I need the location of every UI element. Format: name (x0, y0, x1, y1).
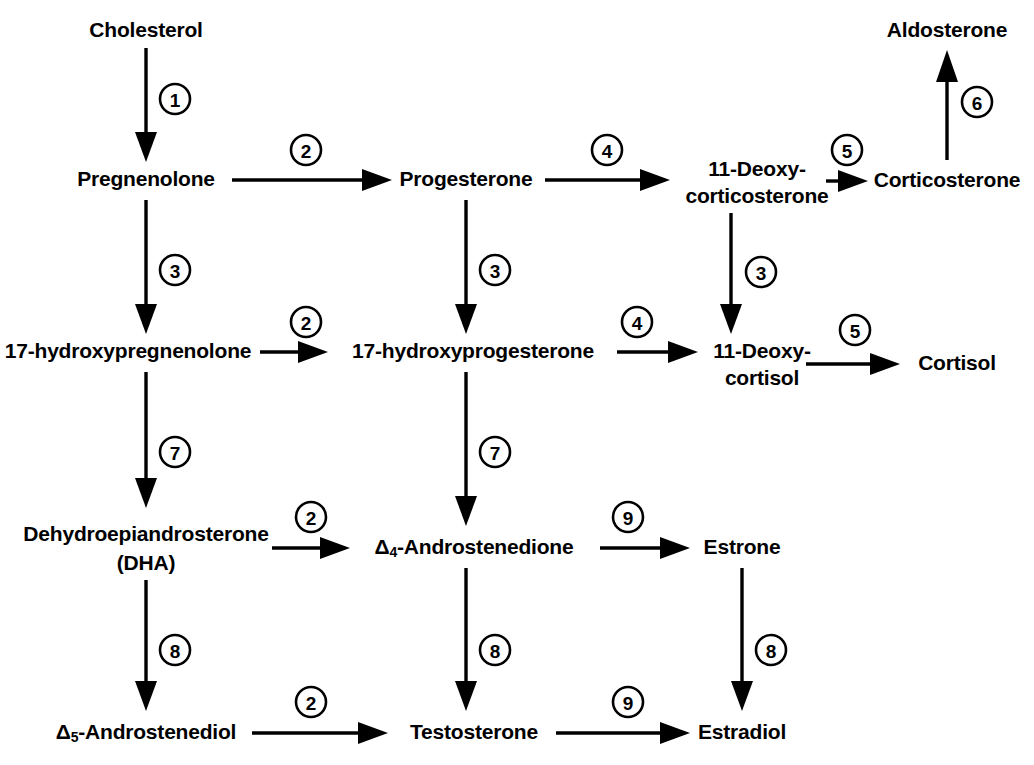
androstenedione-text: -Androstenedione (397, 535, 573, 558)
arrow-head-right (870, 353, 900, 375)
edge-17-hydroxyprogesterone-to-androstenedione: 7 (455, 372, 510, 526)
node-label-corticosterone: Corticosterone (874, 168, 1021, 191)
node-label-cortisol: Cortisol (918, 351, 996, 374)
enzyme-number-8: 8 (490, 641, 501, 662)
arrow-head-down (455, 681, 477, 711)
arrow-head-down (455, 304, 477, 334)
enzyme-number-9: 9 (623, 508, 634, 529)
edge-androstenedione-to-estrone: 9 (600, 502, 690, 559)
enzyme-number-5: 5 (850, 321, 861, 342)
arrow-head-down (720, 304, 742, 334)
arrow-head-right (838, 170, 868, 192)
node-label-estrone: Estrone (704, 535, 781, 558)
edge-pregnenolone-to-progesterone: 2 (232, 135, 392, 191)
delta-5-symbol: Δ (56, 720, 71, 743)
enzyme-number-3: 3 (170, 261, 181, 282)
edge-pregnenolone-to-17-hydroxypregnenolone: 3 (135, 200, 190, 334)
enzyme-number-9: 9 (623, 693, 634, 714)
edge-17-hydroxypregnenolone-to-17-hydroxyprogesterone: 2 (260, 307, 328, 363)
node-label-dha-line2: (DHA) (117, 551, 175, 574)
edge-testosterone-to-estradiol: 9 (556, 687, 690, 744)
edge-deoxycorticosterone-to-deoxycortisol: 3 (720, 213, 776, 334)
arrow-head-right (358, 722, 388, 744)
edge-cholesterol-to-pregnenolone: 1 (135, 48, 190, 162)
enzyme-number-1: 1 (170, 90, 181, 111)
node-label-17-hydroxyprogesterone: 17-hydroxyprogesterone (352, 339, 594, 362)
node-label-dha: Dehydroepiandrosterone (DHA) (23, 522, 268, 574)
enzyme-number-3: 3 (756, 263, 767, 284)
enzyme-number-8: 8 (766, 641, 777, 662)
enzyme-number-8: 8 (170, 641, 181, 662)
edge-androstenediol-to-testosterone: 2 (252, 687, 388, 744)
arrow-head-right (668, 341, 698, 363)
node-label-11-deoxycorticosterone: 11-Deoxy- corticosterone (685, 157, 828, 207)
enzyme-number-2: 2 (301, 313, 312, 334)
node-label-17-hydroxypregnenolone: 17-hydroxypregnenolone (5, 339, 251, 362)
node-label-pregnenolone: Pregnenolone (77, 167, 215, 190)
arrow-head-right (640, 169, 670, 191)
steroidogenesis-diagram: Cholesterol Pregnenolone Progesterone 11… (0, 0, 1034, 765)
arrow-head-right (660, 722, 690, 744)
edge-deoxycortisol-to-cortisol: 5 (806, 315, 900, 375)
edge-17-hydroxyprogesterone-to-deoxycortisol: 4 (617, 307, 698, 363)
arrow-head-right (298, 341, 328, 363)
node-label-testosterone: Testosterone (410, 720, 538, 743)
delta-4-symbol: Δ (375, 535, 390, 558)
edge-17-hydroxypregnenolone-to-dha: 7 (135, 372, 190, 508)
enzyme-number-5: 5 (842, 141, 853, 162)
arrow-head-right (362, 169, 392, 191)
enzyme-number-7: 7 (170, 443, 181, 464)
pathway-svg: Cholesterol Pregnenolone Progesterone 11… (0, 0, 1034, 765)
enzyme-number-7: 7 (490, 443, 501, 464)
enzyme-number-3: 3 (490, 261, 501, 282)
androstenediol-text: -Androstenediol (78, 720, 236, 743)
arrow-head-down (135, 681, 157, 711)
arrow-head-down (731, 681, 753, 711)
enzyme-number-4: 4 (602, 141, 613, 162)
node-label-androstenediol: Δ5-Androstenediol (56, 720, 237, 745)
node-label-11-deoxycorticosterone-line1: 11-Deoxy- (708, 157, 806, 180)
enzyme-number-2: 2 (301, 141, 312, 162)
edge-deoxycorticosterone-to-corticosterone: 5 (826, 135, 868, 192)
enzyme-number-6: 6 (972, 93, 983, 114)
node-label-11-deoxycortisol: 11-Deoxy- cortisol (713, 339, 811, 389)
arrow-head-down (455, 496, 477, 526)
arrow-head-right (660, 537, 690, 559)
arrow-head-down (135, 478, 157, 508)
edge-estrone-to-estradiol: 8 (731, 568, 786, 711)
node-label-estradiol: Estradiol (698, 720, 786, 743)
enzyme-number-2: 2 (306, 693, 317, 714)
node-label-aldosterone: Aldosterone (887, 18, 1007, 41)
edge-dha-to-androstenediol: 8 (135, 580, 190, 711)
edge-progesterone-to-deoxycorticosterone: 4 (545, 135, 670, 191)
node-label-cholesterol: Cholesterol (89, 18, 202, 41)
node-label-androstenedione: Δ4-Androstenedione (375, 535, 574, 560)
arrow-head-down (135, 132, 157, 162)
edge-progesterone-to-17-hydroxyprogesterone: 3 (455, 200, 510, 334)
node-label-dha-line1: Dehydroepiandrosterone (23, 522, 268, 545)
edge-corticosterone-to-aldosterone: 6 (936, 50, 992, 160)
enzyme-number-2: 2 (306, 508, 317, 529)
node-label-11-deoxycortisol-line1: 11-Deoxy- (713, 339, 811, 362)
edge-dha-to-androstenedione: 2 (272, 502, 350, 559)
edge-androstenedione-to-testosterone: 8 (455, 568, 510, 711)
arrow-head-down (135, 304, 157, 334)
node-label-11-deoxycorticosterone-line2: corticosterone (685, 184, 828, 207)
enzyme-number-4: 4 (632, 313, 643, 334)
node-label-progesterone: Progesterone (400, 167, 533, 190)
node-label-11-deoxycortisol-line2: cortisol (725, 366, 799, 389)
arrow-head-right (320, 537, 350, 559)
arrow-head-up (936, 50, 958, 82)
